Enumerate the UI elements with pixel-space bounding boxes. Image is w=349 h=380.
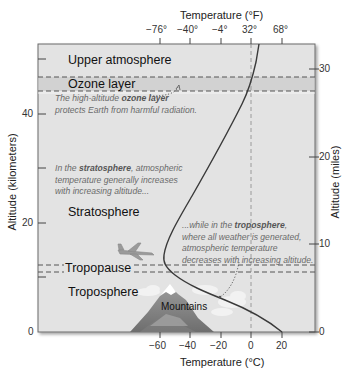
- note-text: atmospheric temperature: [182, 243, 313, 255]
- bottom-tick-label: −60: [149, 340, 166, 351]
- note-text: , atmospheric: [131, 163, 183, 173]
- note-text: The high-altitude: [55, 93, 121, 103]
- bottom-tick-label: 20: [276, 340, 287, 351]
- note-text: protects Earth from harmful radiation.: [55, 105, 197, 117]
- note-emphasis: ozone layer: [121, 93, 168, 103]
- bottom-axis-ticks: [160, 332, 282, 338]
- troposphere-note: ...while in the troposphere, where all w…: [182, 220, 313, 266]
- top-tick-label: 32°: [242, 24, 257, 35]
- note-emphasis: stratosphere: [79, 163, 131, 173]
- left-tick-label: 20: [22, 217, 33, 228]
- note-text: where all weather is generated,: [182, 232, 313, 244]
- right-tick-label: 10: [319, 238, 330, 249]
- label-mountains: Mountains: [161, 301, 207, 312]
- label-upper-atmosphere: Upper atmosphere: [68, 53, 172, 67]
- bottom-tick-label: 0: [248, 340, 254, 351]
- top-tick-label: −4°: [212, 24, 227, 35]
- top-axis-ticks: [160, 38, 282, 44]
- left-tick-label: 40: [22, 108, 33, 119]
- right-tick-label: 20: [319, 151, 330, 162]
- note-text: decreases with increasing altitude.: [182, 255, 313, 267]
- note-text: ,: [285, 220, 287, 230]
- label-tropopause: Tropopause: [64, 261, 132, 275]
- bottom-tick-label: −20: [210, 340, 227, 351]
- left-tick-label: 0: [28, 326, 34, 337]
- note-text: with increasing altitude...: [55, 186, 183, 198]
- stratosphere-note: In the stratosphere, atmospheric tempera…: [55, 163, 183, 198]
- note-emphasis: troposphere: [235, 220, 285, 230]
- note-text: ...while in the: [182, 220, 235, 230]
- label-troposphere: Troposphere: [68, 285, 138, 299]
- top-tick-label: −76°: [146, 24, 167, 35]
- label-stratosphere: Stratosphere: [68, 205, 140, 219]
- right-tick-label: 0: [319, 326, 325, 337]
- top-tick-label: 68°: [273, 24, 288, 35]
- note-text: In the: [55, 163, 79, 173]
- note-text: temperature generally increases: [55, 175, 183, 187]
- bottom-tick-label: −40: [179, 340, 196, 351]
- left-axis-title: Altitude (kilometers): [6, 127, 18, 237]
- label-ozone-layer: Ozone layer: [68, 77, 135, 91]
- top-axis-title: Temperature (°F): [180, 9, 263, 21]
- right-axis-title: Altitude (miles): [329, 137, 341, 227]
- right-tick-label: 30: [319, 63, 330, 74]
- ozone-note: The high-altitude ozone layer protects E…: [55, 93, 197, 116]
- bottom-axis-title: Temperature (°C): [180, 356, 264, 368]
- top-tick-label: −40°: [177, 24, 198, 35]
